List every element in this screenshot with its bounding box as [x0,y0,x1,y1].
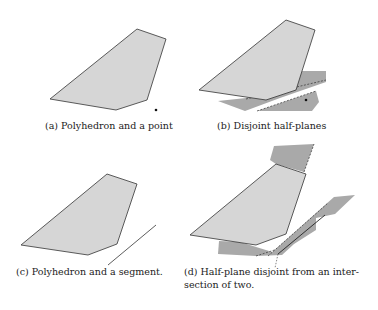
caption-c: (c) Polyhedron and a segment. [16,266,163,278]
figure: (a) Polyhedron and a point (b) Disjoint … [0,0,378,310]
panel-d [190,144,355,268]
caption-d-line2: section of two. [184,279,254,291]
panel-a [50,29,166,111]
caption-b: (b) Disjoint half-planes [217,120,326,132]
point-b [305,99,308,102]
point-a [155,109,158,112]
panel-c [21,174,156,265]
caption-a: (a) Polyhedron and a point [45,120,173,132]
polyhedron-c [21,174,137,255]
diagram-canvas [0,0,378,310]
caption-d-line1: (d) Half-plane disjoint from an inter- [184,266,359,278]
polyhedron-a [50,29,166,110]
polyhedron-d [190,164,306,245]
panel-b [199,20,326,111]
